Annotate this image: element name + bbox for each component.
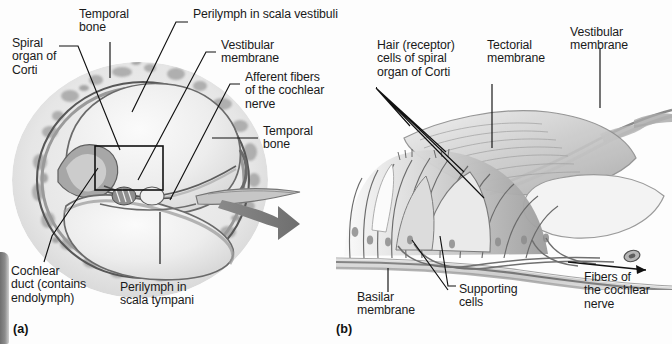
page-edge-artifact: [0, 252, 9, 344]
panel-a-id: (a): [13, 322, 28, 336]
label-hair-cells: Hair (receptor) cells of spiral organ of…: [377, 39, 455, 79]
label-supporting-cells: Supporting cells: [459, 283, 517, 310]
label-fibers-of-cochlear-nerve: Fibers of the cochlear nerve: [584, 271, 650, 311]
label-tectorial-membrane: Tectorial membrane: [487, 39, 545, 66]
label-perilymph-scala-tympani: Perilymph in scala tympani: [120, 281, 194, 308]
label-vestibular-membrane-a: Vestibular membrane: [221, 39, 279, 66]
label-spiral-organ-of-corti: Spiral organ of Corti: [12, 37, 56, 77]
label-basilar-membrane: Basilar membrane: [357, 291, 415, 318]
label-perilymph-scala-vestibuli: Perilymph in scala vestibuli: [193, 8, 338, 21]
label-temporal-bone-top: Temporal bone: [79, 8, 129, 35]
panel-b-id: (b): [336, 322, 352, 336]
label-afferent-fibers: Afferent fibers of the cochlear nerve: [245, 71, 324, 111]
label-cochlear-duct: Cochlear duct (contains endolymph): [11, 265, 86, 305]
label-temporal-bone-right: Temporal bone: [263, 125, 313, 152]
label-vestibular-membrane-b: Vestibular membrane: [570, 26, 628, 53]
panel-b-illustration: [336, 60, 672, 296]
